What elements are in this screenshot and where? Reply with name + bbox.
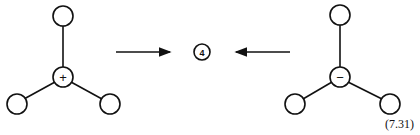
bond-bottom-right — [71, 82, 102, 99]
bond-bottom-left — [24, 82, 55, 99]
ligand-bottom-right — [100, 94, 120, 114]
minus-sign: − — [336, 70, 344, 85]
ligand-bottom-left — [285, 94, 305, 114]
plus-sign: + — [59, 70, 67, 85]
product-label: 4 — [199, 48, 204, 58]
diagram-canvas: + 4 − — [0, 0, 420, 135]
ligand-top — [53, 6, 73, 26]
left-molecule — [7, 6, 120, 114]
ligand-top — [330, 5, 350, 25]
bond-bottom-left — [303, 82, 332, 99]
equation-number: (7.31) — [385, 117, 414, 132]
bond-bottom-right — [348, 82, 382, 99]
ligand-bottom-right — [380, 94, 400, 114]
right-molecule — [285, 5, 400, 114]
ligand-bottom-left — [7, 94, 27, 114]
